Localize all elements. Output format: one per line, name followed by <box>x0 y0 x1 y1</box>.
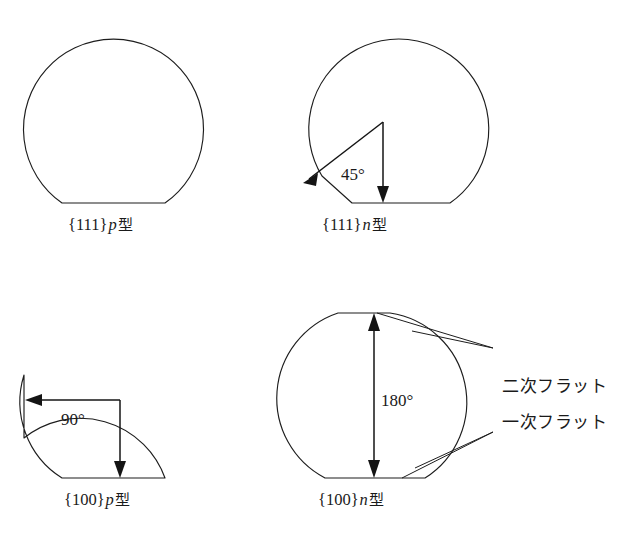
caption-suffix: 型 <box>115 491 130 509</box>
wafer-111-n-outline <box>309 39 489 203</box>
caption-suffix: 型 <box>118 216 133 234</box>
callout-label-primary-flat: 一次フラット <box>502 414 607 431</box>
callout-label-secondary-flat: 二次フラット <box>502 378 607 395</box>
angle-label-180: 180° <box>381 392 413 409</box>
caption-type: p <box>107 215 117 234</box>
caption-plane: {100} <box>318 490 359 509</box>
wafer-111-p-outline <box>24 39 204 203</box>
wafer-100-n-outline <box>277 313 467 478</box>
figure-canvas <box>0 0 627 547</box>
caption-wafer-100-p: {100}p型 <box>64 492 130 509</box>
arrow-head-diagonal-45 <box>303 173 318 186</box>
caption-wafer-111-n: {111}n型 <box>322 217 387 234</box>
wafer-100-p-outline <box>20 375 165 478</box>
caption-type: n <box>359 490 369 509</box>
caption-suffix: 型 <box>372 216 387 234</box>
arrow-head-horizontal-90 <box>25 394 42 406</box>
angle-label-45: 45° <box>341 166 365 183</box>
angle-label-90: 90° <box>61 411 85 428</box>
wafer-orientation-figure: 45° 90° 180° 二次フラット 一次フラット {111}p型 {111}… <box>0 0 627 547</box>
caption-suffix: 型 <box>369 491 384 509</box>
caption-plane: {100} <box>64 490 105 509</box>
caption-plane: {111} <box>322 215 361 234</box>
caption-wafer-100-n: {100}n型 <box>318 492 384 509</box>
caption-type: n <box>361 215 371 234</box>
caption-type: p <box>105 490 115 509</box>
caption-wafer-111-p: {111}p型 <box>68 217 133 234</box>
caption-plane: {111} <box>68 215 107 234</box>
